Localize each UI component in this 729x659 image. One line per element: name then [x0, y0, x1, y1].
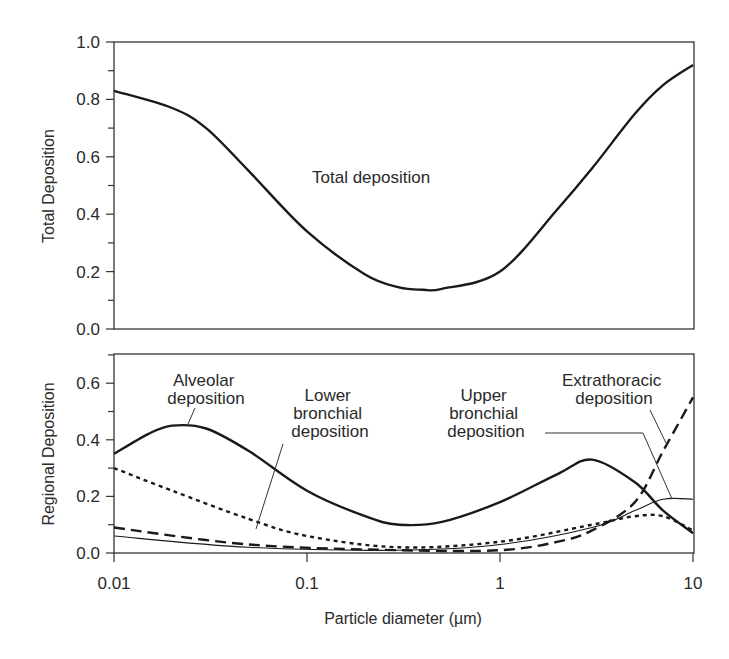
top-y-axis-title: Total Deposition — [40, 129, 57, 243]
x-tick-label: 10 — [684, 574, 703, 593]
lower-bronchial-deposition-curve — [114, 468, 693, 547]
lower-bronchial-leader-line — [256, 444, 283, 529]
y-tick-label: 1.0 — [76, 33, 100, 52]
extrathoracic-deposition-curve — [114, 397, 693, 551]
x-tick-label: 0.01 — [97, 574, 130, 593]
x-axis-title: Particle diameter (µm) — [324, 610, 482, 627]
alveolar-leader-line — [188, 408, 195, 424]
x-tick-label: 0.1 — [295, 574, 319, 593]
alveolar-label: Alveolar deposition — [167, 371, 245, 408]
alveolar-deposition-curve — [114, 425, 693, 533]
x-tick-label: 1 — [495, 574, 504, 593]
lower-bronchial-label: Lower bronchial deposition — [291, 386, 369, 441]
deposition-chart: 0.00.20.40.60.81.0 Total deposition Tota… — [0, 0, 729, 659]
top-panel: 0.00.20.40.60.81.0 Total deposition Tota… — [40, 33, 694, 339]
y-tick-label: 0.4 — [76, 205, 100, 224]
bottom-y-axis: 0.00.20.40.6 — [76, 355, 114, 563]
bottom-y-axis-title: Regional Deposition — [40, 382, 57, 525]
extrathoracic-label: Extrathoracic deposition — [562, 371, 666, 408]
top-y-axis: 0.00.20.40.60.81.0 — [76, 33, 114, 339]
upper-bronchial-label: Upper bronchial deposition — [447, 386, 525, 441]
total-deposition-label: Total deposition — [312, 168, 430, 187]
y-tick-label: 0.4 — [76, 431, 100, 450]
bottom-panel: 0.00.20.40.6 0.010.1110 Alveolar deposit… — [40, 354, 702, 627]
x-axis: 0.010.1110 — [97, 553, 702, 593]
y-tick-label: 0.6 — [76, 374, 100, 393]
y-tick-label: 0.0 — [76, 544, 100, 563]
extrathoracic-leader-line — [650, 410, 666, 443]
y-tick-label: 0.8 — [76, 90, 100, 109]
y-tick-label: 0.2 — [76, 263, 100, 282]
y-tick-label: 0.0 — [76, 320, 100, 339]
y-tick-label: 0.2 — [76, 487, 100, 506]
y-tick-label: 0.6 — [76, 148, 100, 167]
